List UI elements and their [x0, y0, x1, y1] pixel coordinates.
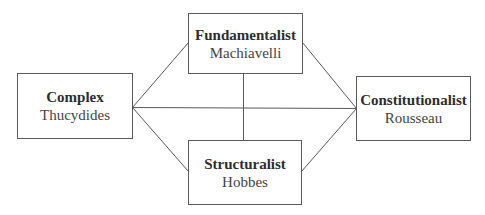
node-subtitle: Thucydides	[40, 106, 110, 124]
node-fundamentalist: Fundamentalist Machiavelli	[188, 13, 303, 74]
node-complex: Complex Thucydides	[17, 73, 133, 139]
node-title: Structuralist	[204, 155, 286, 173]
edge-fundamentalist-constitutionalist	[303, 43, 357, 109]
edge-complex-structuralist	[133, 108, 189, 172]
node-subtitle: Machiavelli	[210, 44, 282, 62]
node-title: Constitutionalist	[360, 91, 467, 109]
node-title: Fundamentalist	[195, 26, 296, 44]
node-structuralist: Structuralist Hobbes	[188, 140, 302, 205]
node-subtitle: Rousseau	[385, 109, 443, 127]
edge-complex-fundamentalist	[133, 43, 189, 108]
node-subtitle: Hobbes	[222, 173, 268, 191]
edge-complex-constitutionalist	[133, 108, 357, 109]
node-constitutionalist: Constitutionalist Rousseau	[356, 76, 471, 141]
edge-structuralist-constitutionalist	[302, 109, 357, 172]
node-title: Complex	[46, 88, 104, 106]
